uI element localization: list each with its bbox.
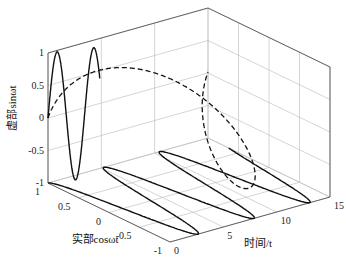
z-axis-label: 虚部sinωt: [5, 85, 18, 130]
time-axis-line: [170, 197, 330, 242]
grid-lines: [48, 8, 330, 242]
wall-grid-line: [48, 138, 208, 183]
series-wall-curve: [48, 48, 100, 180]
floor-grid-line: [79, 153, 239, 198]
series-floor-curve: [48, 148, 310, 234]
3d-line-chart: -1-0.500.51-1-0.500.51051015 虚部sinωt 实部c…: [0, 0, 346, 260]
wall-grid-line: [48, 73, 208, 118]
time-tick-label: 15: [334, 200, 344, 211]
time-tick-label: 0: [174, 245, 179, 256]
floor-grid-line: [140, 182, 300, 227]
real-tick-label: -1: [154, 245, 162, 256]
wall-grid-line: [48, 41, 208, 86]
data-curves: [48, 48, 310, 235]
imag-tick-label: 1: [39, 47, 44, 58]
time-tick-label: 10: [281, 215, 291, 226]
tick-labels: -1-0.500.51-1-0.500.51051015: [28, 47, 344, 256]
top-back-edge: [48, 8, 208, 53]
time-axis-label: 时间/t: [244, 237, 272, 249]
real-tick-label: 1: [35, 186, 40, 197]
imag-tick-label: -0.5: [28, 145, 44, 156]
imag-tick-label: 0.5: [32, 80, 45, 91]
real-axis-label: 实部cosωt: [72, 232, 119, 245]
real-tick-label: 0.5: [58, 201, 71, 212]
wall-grid-line: [48, 106, 208, 151]
imag-tick-label: 0: [39, 112, 44, 123]
axes-box: [48, 8, 330, 242]
real-tick-label: 0: [96, 216, 101, 227]
time-tick-label: 5: [227, 230, 232, 241]
